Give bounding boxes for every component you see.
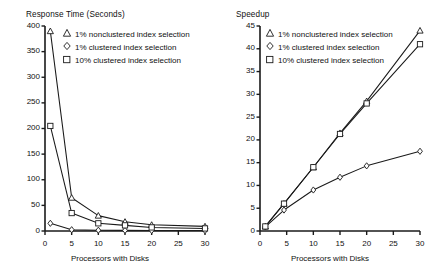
figure-two-panel-chart: Response Time (Seconds) Processors with … — [0, 0, 440, 277]
legend-label: 10% clustered index selection — [278, 56, 384, 65]
legend-label: 10% clustered index selection — [75, 56, 181, 65]
x-tick-label: 10 — [84, 239, 112, 248]
x-tick-label: 10 — [299, 239, 327, 248]
chart-panel-response-time: Response Time (Seconds) Processors with … — [0, 0, 220, 277]
y-tick-label: 300 — [7, 72, 40, 81]
right-x-axis-label: Processors with Disks — [220, 254, 440, 263]
y-tick-label: 30 — [222, 89, 255, 98]
y-tick-label: 35 — [222, 66, 255, 75]
y-tick-label: 50 — [7, 200, 40, 209]
legend-label: 1% nonclustered index selection — [75, 30, 190, 39]
x-tick-label: 5 — [58, 239, 86, 248]
x-tick-label: 20 — [353, 239, 381, 248]
x-tick-label: 20 — [138, 239, 166, 248]
y-tick-label: 15 — [222, 157, 255, 166]
x-tick-label: 5 — [273, 239, 301, 248]
y-tick-label: 250 — [7, 97, 40, 106]
y-tick-label: 5 — [222, 203, 255, 212]
x-tick-label: 0 — [31, 239, 59, 248]
triangle-marker-icon — [62, 28, 72, 38]
y-tick-label: 25 — [222, 112, 255, 121]
square-marker-icon — [265, 54, 275, 64]
y-tick-label: 200 — [7, 123, 40, 132]
x-tick-label: 30 — [191, 239, 219, 248]
y-tick-label: 45 — [222, 21, 255, 30]
triangle-marker-icon — [265, 28, 275, 38]
x-tick-label: 15 — [326, 239, 354, 248]
y-tick-label: 100 — [7, 174, 40, 183]
x-tick-label: 25 — [164, 239, 192, 248]
y-tick-label: 10 — [222, 180, 255, 189]
y-tick-label: 0 — [222, 226, 255, 235]
square-marker-icon — [62, 54, 72, 64]
chart-panel-speedup: Speedup Processors with Disks 1% nonclus… — [220, 0, 440, 277]
legend-label: 1% nonclustered index selection — [278, 30, 393, 39]
legend-label: 1% clustered index selection — [75, 43, 176, 52]
y-tick-label: 0 — [7, 226, 40, 235]
left-x-axis-label: Processors with Disks — [0, 254, 220, 263]
y-tick-label: 150 — [7, 149, 40, 158]
y-tick-label: 350 — [7, 46, 40, 55]
x-tick-label: 15 — [111, 239, 139, 248]
x-tick-label: 0 — [246, 239, 274, 248]
y-tick-label: 40 — [222, 43, 255, 52]
x-tick-label: 25 — [379, 239, 407, 248]
diamond-marker-icon — [265, 41, 275, 51]
x-tick-label: 30 — [406, 239, 434, 248]
diamond-marker-icon — [62, 41, 72, 51]
legend-label: 1% clustered index selection — [278, 43, 379, 52]
y-tick-label: 400 — [7, 21, 40, 30]
y-tick-label: 20 — [222, 134, 255, 143]
